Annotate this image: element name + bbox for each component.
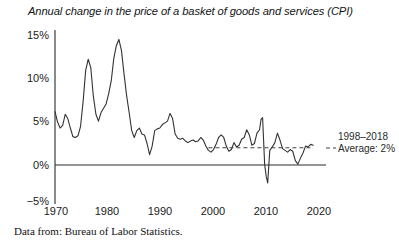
average-annotation: 1998–2018 Average: 2% [338, 131, 395, 154]
x-tick-label: 1980 [95, 205, 119, 217]
y-tick-label: 15% [27, 29, 49, 41]
y-axis-tick-labels: 15% 10% 5% 0% −5% [27, 29, 50, 207]
cpi-chart-figure: Annual change in the price of a basket o… [0, 0, 399, 243]
source-note: Data from: Bureau of Labor Statistics. [14, 225, 183, 237]
y-tick-label: 0% [33, 159, 49, 171]
y-tick-label: 5% [33, 115, 49, 127]
x-tick-label: 2000 [201, 205, 225, 217]
y-tick-label: 10% [27, 72, 49, 84]
x-tick-label: 2010 [254, 205, 278, 217]
x-tick-label: 2020 [307, 205, 331, 217]
x-axis-tick-labels: 1970 1980 1990 2000 2010 2020 [44, 205, 331, 217]
cpi-data-line [55, 39, 313, 183]
x-tick-label: 1990 [148, 205, 172, 217]
x-tick-label: 1970 [44, 205, 68, 217]
annotation-period-label: 1998–2018 [338, 131, 388, 142]
chart-plot-area: 15% 10% 5% 0% −5% 1970 1980 1990 2000 20… [0, 0, 399, 243]
annotation-average-label: Average: 2% [338, 143, 395, 154]
